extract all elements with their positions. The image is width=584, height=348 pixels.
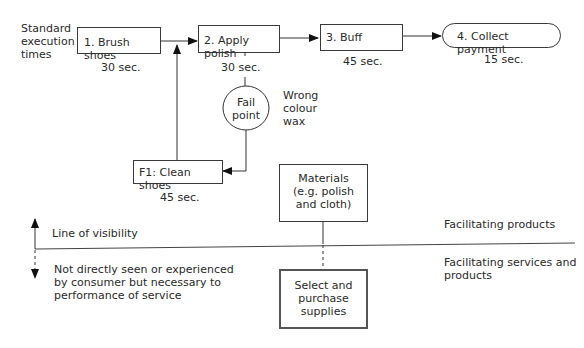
- standard-times-label-1: Standard: [21, 22, 71, 35]
- below-visibility-text-1: Not directly seen or experienced: [54, 263, 234, 276]
- step-collect-payment: 4. Collect payment: [442, 23, 561, 48]
- select-purchase-supplies-box: Select and purchase supplies: [279, 269, 368, 329]
- facilitating-services-label-1: Facilitating services and: [444, 256, 576, 269]
- step-time: 15 sec.: [484, 53, 524, 66]
- fail-point-label-1: Fail: [223, 96, 269, 109]
- materials-line-1: Materials: [280, 172, 367, 185]
- step-time: 45 sec.: [343, 55, 383, 68]
- step-buff: 3. Buff: [320, 24, 403, 51]
- standard-times-label-3: times: [21, 48, 52, 61]
- fix-step-time: 45 sec.: [160, 191, 200, 204]
- materials-box: Materials (e.g. polish and cloth): [279, 164, 368, 222]
- facilitating-products-label: Facilitating products: [444, 218, 555, 231]
- fail-note-1: Wrong: [283, 89, 318, 102]
- materials-line-2: (e.g. polish: [280, 185, 367, 198]
- materials-line-3: and cloth): [280, 198, 367, 211]
- fix-step-clean-shoes: F1: Clean shoes: [133, 160, 223, 184]
- facilitating-services-label-2: products: [444, 269, 492, 282]
- step-time: 30 sec.: [221, 61, 261, 74]
- step-label: 3. Buff: [326, 31, 362, 44]
- step-apply-polish: 2. Apply polish: [198, 25, 280, 53]
- supplies-line-2: purchase: [281, 292, 366, 305]
- fail-note-2: colour: [283, 102, 317, 115]
- step-brush-shoes: 1. Brush shoes: [77, 27, 161, 54]
- step-time: 30 sec.: [101, 61, 141, 74]
- standard-times-label-2: execution: [21, 35, 75, 48]
- fail-point-label-2: point: [223, 109, 269, 122]
- supplies-line-3: supplies: [281, 305, 366, 318]
- fail-note-3: wax: [283, 115, 305, 128]
- below-visibility-text-2: by consumer but necessary to: [54, 276, 221, 289]
- supplies-line-1: Select and: [281, 279, 366, 292]
- line-of-visibility-label: Line of visibility: [52, 227, 138, 240]
- below-visibility-text-3: performance of service: [54, 289, 181, 302]
